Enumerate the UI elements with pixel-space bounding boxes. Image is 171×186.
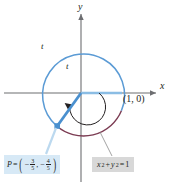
- point-p-x-sign: −: [25, 161, 30, 169]
- outer-arc-length-label: t: [41, 41, 44, 51]
- point-p-separator: ,: [36, 161, 38, 169]
- equation-equals: =: [120, 161, 125, 169]
- inner-angle-arc: [70, 93, 106, 125]
- y-axis-label: y: [78, 1, 82, 12]
- point-p-y-fraction: 4 5: [46, 158, 51, 172]
- inner-angle-label: t: [66, 61, 69, 71]
- equation-x-exponent: 2: [102, 162, 105, 168]
- point-p-leader-line: [46, 128, 56, 154]
- equation-value: 1: [125, 161, 129, 169]
- y-axis-arrowhead: [78, 14, 83, 20]
- point-p-callout: P = ( − 3 5 , − 4 5 ): [4, 155, 60, 174]
- equation-leader-line: [100, 132, 112, 156]
- point-one-zero-label: (1, 0): [123, 93, 145, 104]
- unit-circle-blue-arc: [43, 54, 125, 126]
- point-p-x-denominator: 5: [30, 165, 35, 171]
- x-axis-label: x: [160, 80, 164, 91]
- point-p-y-denominator: 5: [46, 165, 51, 171]
- point-p-close-paren: ): [53, 157, 56, 173]
- point-p-y-sign: −: [40, 161, 45, 169]
- circle-equation-callout: x2 + y2 = 1: [92, 157, 134, 172]
- equation-y-var: y: [111, 161, 115, 169]
- equation-x-var: x: [97, 161, 101, 169]
- equation-plus: +: [106, 161, 111, 169]
- point-p-open-paren: (: [20, 157, 23, 173]
- x-axis-arrowhead: [150, 90, 156, 95]
- point-p-equals: =: [13, 161, 18, 169]
- point-p-name: P: [7, 161, 12, 169]
- point-p-x-fraction: 3 5: [30, 158, 35, 172]
- terminal-side-radius: [58, 93, 81, 126]
- equation-y-exponent: 2: [116, 162, 119, 168]
- point-p-x-numerator: 3: [30, 158, 35, 165]
- point-p-y-numerator: 4: [46, 158, 51, 165]
